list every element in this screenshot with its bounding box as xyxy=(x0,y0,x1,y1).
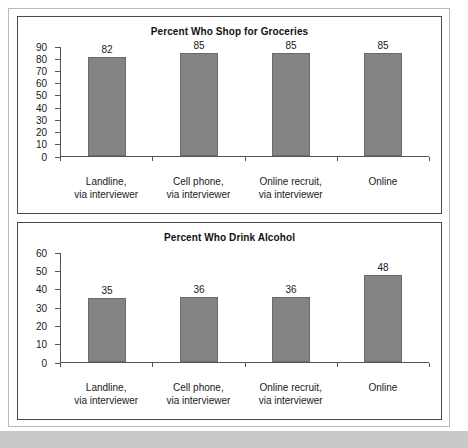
x-axis-tick xyxy=(60,363,61,367)
y-axis-tick-label: 60 xyxy=(36,247,47,258)
chart-panel-alcohol: Percent Who Drink Alcohol 35363648 01020… xyxy=(17,222,442,420)
category-label-line: Landline, xyxy=(60,381,152,394)
bar-value-label: 35 xyxy=(101,285,112,296)
category-label-line: via interviewer xyxy=(60,188,152,201)
category-label: Online recruit,via interviewer xyxy=(245,381,337,407)
category-labels-alcohol: Landline,via interviewerCell phone,via i… xyxy=(60,381,429,407)
x-axis-tick xyxy=(60,157,61,161)
y-axis-tick-label: 0 xyxy=(41,357,47,368)
chart-panel-groceries: Percent Who Shop for Groceries 82858585 … xyxy=(17,16,442,214)
y-axis-tick-label: 80 xyxy=(36,53,47,64)
y-axis-tick: 40 xyxy=(55,289,60,290)
figure-frame: Percent Who Shop for Groceries 82858585 … xyxy=(8,8,450,427)
category-label: Landline,via interviewer xyxy=(60,381,152,407)
y-axis-tick: 70 xyxy=(55,71,60,72)
plot-area-groceries: 82858585 0102030405060708090 xyxy=(60,47,429,157)
y-axis-tick-label: 90 xyxy=(36,41,47,52)
x-axis-tick xyxy=(152,157,153,161)
bar-value-label: 85 xyxy=(193,40,204,51)
y-axis-tick-label: 70 xyxy=(36,65,47,76)
y-axis-tick: 20 xyxy=(55,132,60,133)
category-label: Cell phone,via interviewer xyxy=(152,175,244,201)
y-axis-tick-label: 20 xyxy=(36,320,47,331)
y-axis-tick-label: 50 xyxy=(36,265,47,276)
bar: 85 xyxy=(272,53,310,156)
category-label-line: Online recruit, xyxy=(245,381,337,394)
y-axis-tick-label: 50 xyxy=(36,90,47,101)
category-label-line: Cell phone, xyxy=(152,381,244,394)
y-axis-tick-label: 60 xyxy=(36,78,47,89)
y-axis-tick: 20 xyxy=(55,326,60,327)
bar: 82 xyxy=(88,57,126,156)
y-axis-tick-label: 30 xyxy=(36,114,47,125)
x-axis-tick xyxy=(245,157,246,161)
y-axis-tick: 10 xyxy=(55,344,60,345)
bar-value-label: 36 xyxy=(193,284,204,295)
bar-slot: 85 xyxy=(337,47,429,156)
category-label: Online xyxy=(337,381,429,407)
x-axis-tick xyxy=(337,363,338,367)
y-axis-tick: 50 xyxy=(55,271,60,272)
chart-title-groceries: Percent Who Shop for Groceries xyxy=(18,26,441,37)
bar-slot: 85 xyxy=(245,47,337,156)
plot-area-alcohol: 35363648 0102030405060 xyxy=(60,253,429,363)
page-bottom-band xyxy=(0,431,468,448)
category-label-line: via interviewer xyxy=(152,394,244,407)
bar-value-label: 85 xyxy=(377,40,388,51)
y-axis-tick-label: 40 xyxy=(36,284,47,295)
x-axis-tick xyxy=(429,157,430,161)
y-axis-tick: 10 xyxy=(55,144,60,145)
y-axis-tick-label: 0 xyxy=(41,151,47,162)
y-axis-tick: 80 xyxy=(55,59,60,60)
y-axis-tick-label: 40 xyxy=(36,102,47,113)
category-label-line: Online xyxy=(337,175,429,188)
bar: 36 xyxy=(272,297,310,362)
category-label-line: via interviewer xyxy=(245,394,337,407)
bar-group-groceries: 82858585 xyxy=(61,47,429,156)
y-axis-tick: 90 xyxy=(55,47,60,48)
category-label-line: Online xyxy=(337,381,429,394)
y-axis-tick: 60 xyxy=(55,83,60,84)
bar-value-label: 36 xyxy=(285,284,296,295)
y-axis-tick-label: 10 xyxy=(36,139,47,150)
y-axis-tick: 50 xyxy=(55,95,60,96)
category-label: Online xyxy=(337,175,429,201)
category-label-line: via interviewer xyxy=(60,394,152,407)
y-axis-tick: 30 xyxy=(55,308,60,309)
y-axis-tick: 60 xyxy=(55,253,60,254)
bar-slot: 36 xyxy=(245,253,337,362)
bar-slot: 85 xyxy=(153,47,245,156)
category-label: Online recruit,via interviewer xyxy=(245,175,337,201)
bar: 85 xyxy=(180,53,218,156)
y-axis-tick-label: 10 xyxy=(36,339,47,350)
category-label-line: via interviewer xyxy=(245,188,337,201)
bar-group-alcohol: 35363648 xyxy=(61,253,429,362)
bar: 48 xyxy=(364,275,402,362)
bar-slot: 48 xyxy=(337,253,429,362)
category-label-line: Online recruit, xyxy=(245,175,337,188)
y-axis-tick-label: 20 xyxy=(36,127,47,138)
x-axis-tick xyxy=(245,363,246,367)
category-label: Landline,via interviewer xyxy=(60,175,152,201)
bar: 36 xyxy=(180,297,218,362)
bar-value-label: 48 xyxy=(377,262,388,273)
bar-slot: 35 xyxy=(61,253,153,362)
bar-slot: 36 xyxy=(153,253,245,362)
bar: 35 xyxy=(88,298,126,362)
chart-title-alcohol: Percent Who Drink Alcohol xyxy=(18,232,441,243)
category-label-line: via interviewer xyxy=(152,188,244,201)
category-label: Cell phone,via interviewer xyxy=(152,381,244,407)
bar: 85 xyxy=(364,53,402,156)
x-axis-tick xyxy=(337,157,338,161)
y-axis-tick: 30 xyxy=(55,120,60,121)
bar-value-label: 85 xyxy=(285,40,296,51)
category-label-line: Landline, xyxy=(60,175,152,188)
category-label-line: Cell phone, xyxy=(152,175,244,188)
x-axis-tick xyxy=(429,363,430,367)
y-axis-tick: 40 xyxy=(55,108,60,109)
bar-slot: 82 xyxy=(61,47,153,156)
y-axis-tick-label: 30 xyxy=(36,302,47,313)
x-axis-tick xyxy=(152,363,153,367)
bar-value-label: 82 xyxy=(101,44,112,55)
category-labels-groceries: Landline,via interviewerCell phone,via i… xyxy=(60,175,429,201)
